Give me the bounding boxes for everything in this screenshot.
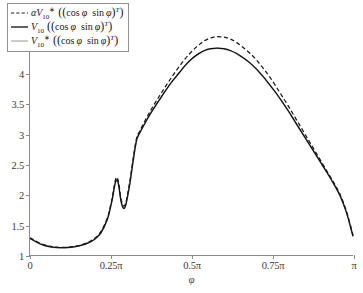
y-axis-label: 3.5 <box>11 99 24 110</box>
y-axis-label: 3 <box>19 129 24 140</box>
x-axis-label: 0.25π <box>100 260 123 271</box>
y-axis-label: 1 <box>19 251 24 262</box>
legend-entry-alpha-v10-star: αV10∗((cos φ sin φ)T) <box>11 6 123 20</box>
y-axis-label: 2 <box>19 190 24 201</box>
legend-solid-line-swatch <box>11 22 28 32</box>
series-v10-star-line <box>30 48 353 248</box>
x-axis-label: π <box>351 260 356 271</box>
x-axis-label: 0.5π <box>183 260 201 271</box>
x-axis-label: 0 <box>27 260 32 271</box>
x-axis-tick <box>30 255 31 259</box>
legend-label-v10-star: V10∗((cos φ sin φ)T) <box>31 34 118 49</box>
x-axis-label: 0.75π <box>262 260 285 271</box>
y-axis-label: 2.5 <box>11 159 24 170</box>
series-v10-line <box>30 48 353 248</box>
x-axis-tick <box>192 255 193 259</box>
y-axis-label: 1.5 <box>11 220 24 231</box>
figure-container: 5 4.5 4 3.5 3 2.5 2 1.5 1 0 0.25π 0.5π 0… <box>0 0 363 293</box>
legend-light-line-swatch <box>11 36 28 46</box>
y-axis-label: 4 <box>19 68 24 79</box>
legend: αV10∗((cos φ sin φ)T) V10((cos φ sin φ)T… <box>7 3 129 52</box>
x-axis-title: φ <box>188 273 194 285</box>
legend-dashed-line-swatch <box>11 8 28 18</box>
x-axis-tick <box>111 255 112 259</box>
x-axis-tick <box>273 255 274 259</box>
legend-entry-v10-star: V10∗((cos φ sin φ)T) <box>11 34 123 48</box>
x-axis-tick <box>354 255 355 259</box>
series-alpha-v10-star-line <box>30 37 353 248</box>
